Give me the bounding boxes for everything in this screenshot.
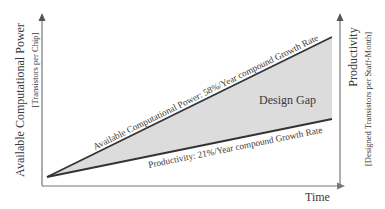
- x-axis-arrow-icon: [337, 183, 345, 190]
- left-axis-title: Available Computational Power: [13, 23, 27, 177]
- left-axis-arrow-icon: [39, 13, 46, 21]
- right-axis-title: Productivity: [346, 27, 360, 86]
- x-axis-title: Time: [305, 190, 330, 204]
- design-gap-label: Design Gap: [259, 93, 316, 107]
- left-axis-subtitle: [Transistors per Chip]: [30, 32, 40, 107]
- right-axis-subtitle: [Designed Transistors per Staff-Month]: [363, 32, 373, 166]
- right-axis-arrow-icon: [337, 13, 344, 21]
- design-gap-diagram: Available Computational Power: 58%/Year …: [0, 0, 385, 209]
